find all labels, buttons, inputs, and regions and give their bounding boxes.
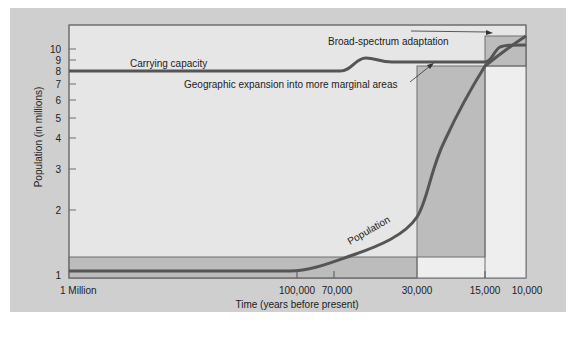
- light-region-15k-10k: [485, 66, 526, 278]
- y-axis-labels: 10 9 8 7 6 5 4 3 2 1: [50, 44, 62, 281]
- svg-text:1: 1: [55, 270, 61, 281]
- x-axis-labels: 1 Million 100,000 70,000 30,000 15,000 1…: [60, 285, 543, 296]
- population-chart: Carrying capacity Broad-spectrum adaptat…: [0, 0, 575, 338]
- shaded-region-30k-15k: [417, 66, 485, 257]
- svg-text:5: 5: [55, 113, 61, 124]
- geographic-expansion-label: Geographic expansion into more marginal …: [184, 79, 397, 90]
- broad-spectrum-label: Broad-spectrum adaptation: [328, 36, 449, 47]
- svg-text:100,000: 100,000: [279, 285, 316, 296]
- svg-text:30,000: 30,000: [402, 285, 433, 296]
- svg-text:2: 2: [55, 205, 61, 216]
- svg-text:8: 8: [55, 66, 61, 77]
- svg-text:4: 4: [55, 133, 61, 144]
- svg-text:15,000: 15,000: [470, 285, 501, 296]
- carrying-capacity-label: Carrying capacity: [130, 58, 207, 69]
- svg-text:6: 6: [55, 95, 61, 106]
- y-axis-title: Population (in millions): [33, 87, 44, 188]
- shaded-region-early: [69, 257, 417, 278]
- svg-text:10,000: 10,000: [512, 285, 543, 296]
- svg-text:1 Million: 1 Million: [60, 285, 97, 296]
- svg-text:10: 10: [50, 44, 62, 55]
- x-axis-title: Time (years before present): [235, 299, 358, 310]
- svg-text:9: 9: [55, 55, 61, 66]
- svg-text:3: 3: [55, 164, 61, 175]
- figure-caption-cutoff: [10, 322, 566, 332]
- svg-text:70,000: 70,000: [322, 285, 353, 296]
- svg-text:7: 7: [55, 79, 61, 90]
